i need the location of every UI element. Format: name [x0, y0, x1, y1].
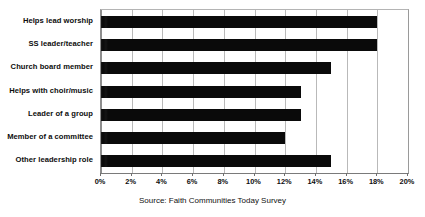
- x-tick-4: [161, 173, 162, 176]
- x-axis-labels: 0%2%4%6%8%10%12%14%16%18%20%: [0, 177, 425, 189]
- x-tick-16: [346, 173, 347, 176]
- bar: [101, 109, 301, 121]
- category-axis: Helps lead worshipSS leader/teacherChurc…: [0, 9, 97, 172]
- category-label: Helps with choir/music: [0, 86, 93, 95]
- category-label: Member of a committee: [0, 132, 93, 141]
- bar: [101, 155, 331, 167]
- x-tick-2: [131, 173, 132, 176]
- bar: [101, 62, 331, 74]
- bar-series: [101, 10, 408, 173]
- category-label: Leader of a group: [0, 109, 93, 118]
- x-tick-8: [223, 173, 224, 176]
- x-tick-20: [407, 173, 408, 176]
- category-label: Other leadership role: [0, 155, 93, 164]
- source-caption: Source: Faith Communities Today Survey: [0, 195, 425, 206]
- x-tick-14: [315, 173, 316, 176]
- bar: [101, 16, 377, 28]
- x-tick-6: [192, 173, 193, 176]
- bar: [101, 86, 301, 98]
- bar-chart: Helps lead worshipSS leader/teacherChurc…: [0, 0, 425, 217]
- category-label: Helps lead worship: [0, 16, 93, 25]
- plot-area: [100, 9, 409, 174]
- category-label: Church board member: [0, 62, 93, 71]
- x-tick-label: 20%: [387, 177, 425, 187]
- bar: [101, 39, 377, 51]
- category-label: SS leader/teacher: [0, 39, 93, 48]
- x-tick-0: [100, 173, 101, 176]
- x-tick-10: [254, 173, 255, 176]
- x-tick-12: [284, 173, 285, 176]
- bar: [101, 132, 285, 144]
- x-tick-18: [376, 173, 377, 176]
